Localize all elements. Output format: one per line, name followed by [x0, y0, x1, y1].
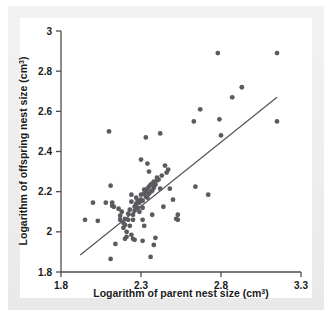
y-tick-label: 2: [46, 226, 52, 237]
scatter-plot: 1.82.32.83.3 1.822.22.42.62.83 Logarithm…: [0, 0, 332, 323]
data-point: [129, 192, 134, 197]
data-point: [167, 186, 172, 191]
data-point: [108, 183, 113, 188]
data-point: [110, 200, 115, 205]
y-tick-label: 1.8: [38, 267, 52, 278]
data-point: [275, 119, 280, 124]
data-point: [166, 167, 171, 172]
data-point: [230, 95, 235, 100]
data-point: [275, 51, 280, 56]
data-point: [140, 217, 145, 222]
data-point: [151, 242, 156, 247]
data-point: [163, 163, 168, 168]
data-point: [108, 257, 113, 262]
data-point: [140, 198, 145, 203]
data-point: [113, 241, 118, 246]
data-point: [215, 51, 220, 56]
data-point: [124, 229, 129, 234]
data-point: [123, 236, 128, 241]
data-point: [156, 177, 161, 182]
y-tick-label: 2.4: [38, 146, 52, 157]
data-point: [175, 212, 180, 217]
x-tick-label: 1.8: [54, 280, 68, 291]
data-point: [95, 218, 100, 223]
data-point: [119, 209, 124, 214]
data-point: [219, 133, 224, 138]
plot-area: [61, 31, 301, 272]
data-point: [148, 255, 153, 260]
data-point: [140, 238, 145, 243]
data-point: [239, 85, 244, 90]
x-axis-title: Logarithm of parent nest size (cm3): [93, 287, 268, 299]
data-point: [137, 209, 142, 214]
data-point: [91, 200, 96, 205]
figure-container: 1.82.32.83.3 1.822.22.42.62.83 Logarithm…: [0, 0, 332, 323]
data-point: [158, 186, 163, 191]
data-point: [129, 199, 134, 204]
data-point: [140, 205, 145, 210]
data-point: [159, 173, 164, 178]
data-point: [103, 200, 108, 205]
data-point: [198, 107, 203, 112]
data-point: [175, 217, 180, 222]
data-point: [127, 223, 132, 228]
y-tick-label: 2.2: [38, 186, 52, 197]
data-point: [83, 217, 88, 222]
data-point: [143, 135, 148, 140]
data-point: [193, 184, 198, 189]
y-tick-label: 2.8: [38, 66, 52, 77]
data-point: [145, 161, 150, 166]
data-point: [139, 157, 144, 162]
data-point: [107, 129, 112, 134]
y-tick-label: 2.6: [38, 106, 52, 117]
data-point: [206, 192, 211, 197]
data-point: [191, 119, 196, 124]
data-point: [127, 207, 132, 212]
data-point: [158, 131, 163, 136]
data-point: [123, 222, 128, 227]
data-point: [126, 217, 131, 222]
data-point: [153, 235, 158, 240]
y-axis-title: Logarithm of offspring nest size (cm3): [17, 57, 29, 246]
data-point: [217, 117, 222, 122]
data-point: [150, 212, 155, 217]
data-point: [142, 223, 147, 228]
data-point: [147, 169, 152, 174]
x-tick-label: 3.3: [294, 280, 308, 291]
data-point: [171, 197, 176, 202]
data-point: [132, 237, 137, 242]
data-point: [131, 217, 136, 222]
data-point: [161, 204, 166, 209]
y-tick-label: 3: [46, 26, 52, 37]
